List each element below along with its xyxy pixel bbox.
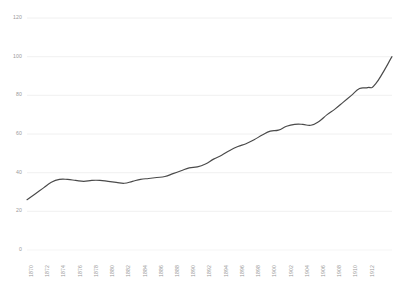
x-tick-label-1882: 1882 — [126, 265, 131, 277]
x-tick-label-1892: 1892 — [207, 265, 212, 277]
x-tick-label-1886: 1886 — [159, 265, 164, 277]
x-tick-label-1870: 1870 — [29, 265, 34, 277]
y-tick-label-120: 120 — [0, 15, 22, 20]
x-tick-label-1878: 1878 — [94, 265, 99, 277]
y-tick-label-20: 20 — [0, 208, 22, 213]
x-tick-label-1872: 1872 — [45, 265, 50, 277]
x-tick-label-1888: 1888 — [175, 265, 180, 277]
x-tick-label-1890: 1890 — [191, 265, 196, 277]
line-chart: 020406080100120 187018721874187618781880… — [0, 0, 401, 305]
x-tick-label-1900: 1900 — [272, 265, 277, 277]
x-tick-label-1874: 1874 — [61, 265, 66, 277]
y-tick-label-60: 60 — [0, 131, 22, 136]
x-tick-label-1898: 1898 — [256, 265, 261, 277]
x-tick-label-1904: 1904 — [305, 265, 310, 277]
x-tick-label-1894: 1894 — [224, 265, 229, 277]
x-tick-label-1906: 1906 — [321, 265, 326, 277]
y-tick-label-0: 0 — [0, 247, 22, 252]
x-tick-label-1910: 1910 — [353, 265, 358, 277]
data-series-line — [27, 57, 392, 200]
chart-canvas — [0, 0, 401, 305]
x-tick-label-1876: 1876 — [78, 265, 83, 277]
y-tick-label-40: 40 — [0, 170, 22, 175]
x-tick-label-1908: 1908 — [337, 265, 342, 277]
x-tick-label-1884: 1884 — [143, 265, 148, 277]
x-tick-label-1896: 1896 — [240, 265, 245, 277]
y-tick-label-100: 100 — [0, 54, 22, 59]
x-tick-label-1912: 1912 — [370, 265, 375, 277]
y-tick-label-80: 80 — [0, 92, 22, 97]
x-tick-label-1880: 1880 — [110, 265, 115, 277]
gridlines — [27, 18, 392, 250]
x-tick-label-1902: 1902 — [289, 265, 294, 277]
